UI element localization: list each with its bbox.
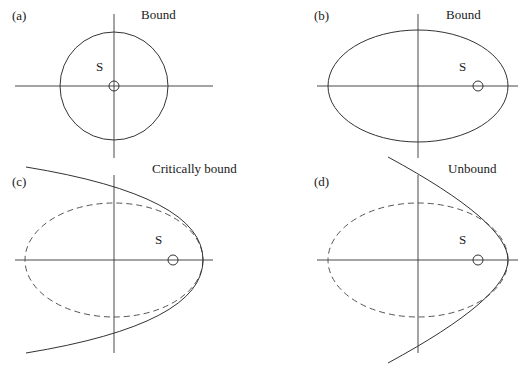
panel-title: Bound xyxy=(446,7,481,22)
panel-d: (d) Unbound S xyxy=(314,157,518,363)
panel-c: (c) Critically bound S xyxy=(12,161,237,353)
panel-title: Unbound xyxy=(448,161,497,176)
body-label: S xyxy=(155,232,162,247)
body-label: S xyxy=(459,59,466,74)
body-label: S xyxy=(96,59,103,74)
panel-tag: (b) xyxy=(314,8,329,23)
panel-tag: (a) xyxy=(12,8,26,23)
panel-title: Bound xyxy=(141,7,176,22)
panel-a: (a) Bound S xyxy=(12,7,213,158)
body-label: S xyxy=(459,232,466,247)
panel-tag: (d) xyxy=(314,174,329,189)
panel-title: Critically bound xyxy=(152,161,237,176)
orbit-diagram: (a) Bound S (b) Bound S (c) Critically b… xyxy=(0,0,527,369)
panel-b: (b) Bound S xyxy=(314,7,518,158)
panel-tag: (c) xyxy=(12,174,26,189)
